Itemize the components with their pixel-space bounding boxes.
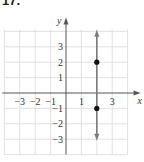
y-tick-label: 1 bbox=[58, 72, 63, 83]
data-point bbox=[94, 60, 99, 65]
arrow-down-icon bbox=[94, 134, 99, 141]
y-axis-arrow-icon bbox=[64, 17, 69, 24]
y-tick-label: 2 bbox=[58, 57, 63, 68]
x-axis-label: x bbox=[137, 95, 143, 106]
arrow-up-icon bbox=[94, 30, 99, 37]
x-tick-label: −3 bbox=[14, 96, 25, 107]
x-tick-label: −2 bbox=[30, 96, 41, 107]
axes: xy bbox=[2, 15, 142, 154]
coordinate-plane: xy −3−2−113321−1−2−3 bbox=[0, 0, 144, 162]
y-axis-label: y bbox=[56, 15, 62, 26]
x-tick-label: 3 bbox=[110, 96, 115, 107]
y-tick-label: −1 bbox=[52, 103, 63, 114]
y-tick-label: −3 bbox=[52, 134, 63, 145]
data-point bbox=[94, 106, 99, 111]
y-tick-label: −2 bbox=[52, 118, 63, 129]
y-tick-label: 3 bbox=[58, 41, 63, 52]
x-tick-label: 1 bbox=[79, 96, 84, 107]
